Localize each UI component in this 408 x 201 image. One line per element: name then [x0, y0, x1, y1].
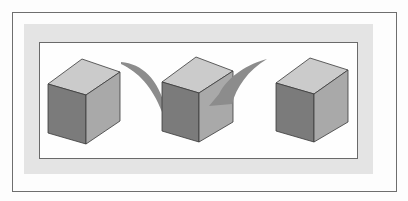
figure-canvas: [0, 0, 408, 201]
cube-checkmark-figure: [0, 0, 408, 201]
cube-left-left-face: [48, 84, 86, 144]
cube-center-left-face: [162, 82, 199, 142]
